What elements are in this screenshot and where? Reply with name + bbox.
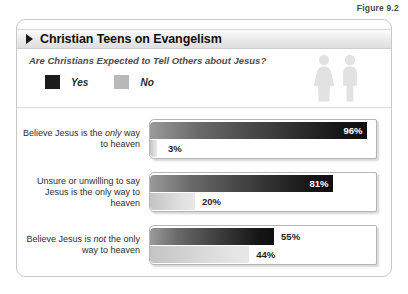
bar-no (150, 140, 157, 157)
row-label-text-em: not (93, 234, 106, 244)
chart-title-bar: Christian Teens on Evangelism (17, 29, 391, 49)
legend-item-no: No (114, 75, 153, 89)
bar-value-no: 3% (168, 144, 182, 154)
row-label-text-pre: Believe Jesus is (26, 234, 93, 244)
chart-title: Christian Teens on Evangelism (40, 32, 222, 46)
bar-yes (150, 122, 367, 139)
row-label-text-em: only (105, 128, 122, 138)
chart-row: Believe Jesus is the only way to heaven … (17, 115, 377, 163)
chart-header: Are Christians Expected to Tell Others a… (17, 50, 391, 108)
chart-legend: Yes No (45, 75, 180, 89)
legend-item-yes: Yes (45, 75, 88, 89)
bar-value-yes: 55% (281, 232, 300, 242)
bar-yes (150, 228, 274, 245)
row-label-text-pre: Believe Jesus is the (23, 128, 105, 138)
legend-swatch-yes-icon (45, 75, 60, 89)
bar-no (150, 246, 249, 263)
chart-subtitle: Are Christians Expected to Tell Others a… (29, 55, 266, 66)
row-label-text-pre: Unsure or unwilling to say Jesus is the … (37, 176, 140, 208)
row-label: Believe Jesus is the only way to heaven (17, 128, 149, 150)
bar-value-yes: 96% (343, 126, 362, 136)
bar-panel: 81% 20% (149, 172, 377, 212)
bar-panel: 96% 3% (149, 119, 377, 159)
chart-plot-area: Believe Jesus is the only way to heaven … (17, 109, 391, 276)
two-people-icon (307, 53, 369, 103)
bar-value-no: 44% (256, 250, 275, 260)
bar-panel: 55% 44% (149, 225, 377, 265)
legend-swatch-no-icon (114, 75, 129, 89)
chart-row: Believe Jesus is not the only way to hea… (17, 221, 377, 269)
figure-caption: Figure 9.2 (357, 3, 399, 13)
chart-row: Unsure or unwilling to say Jesus is the … (17, 168, 377, 216)
legend-label-no: No (140, 77, 153, 88)
row-label: Believe Jesus is not the only way to hea… (17, 234, 149, 256)
bar-yes (150, 175, 333, 192)
triangle-right-icon (26, 34, 33, 44)
legend-label-yes: Yes (71, 77, 88, 88)
bar-value-yes: 81% (310, 179, 329, 189)
row-label: Unsure or unwilling to say Jesus is the … (17, 176, 149, 209)
bar-no (150, 193, 195, 210)
bar-value-no: 20% (202, 197, 221, 207)
chart-card: Christian Teens on Evangelism Are Christ… (16, 19, 392, 277)
